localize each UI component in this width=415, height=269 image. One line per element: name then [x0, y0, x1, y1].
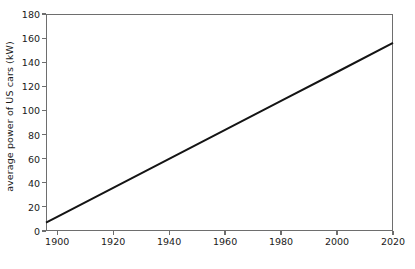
- y-axis-title: average power of US cars (kW): [0, 0, 18, 232]
- y-axis-tick-mark: [42, 158, 46, 159]
- x-axis-tick-mark: [224, 231, 225, 235]
- chart-figure: average power of US cars (kW) 0204060801…: [0, 0, 415, 269]
- y-axis-tick-label: 100: [0, 105, 40, 116]
- y-axis-tick-mark: [42, 13, 46, 14]
- y-axis-tick-label: 80: [0, 129, 40, 140]
- y-axis-tick-mark: [42, 134, 46, 135]
- y-axis-tick-mark: [42, 62, 46, 63]
- y-axis-tick-label: 120: [0, 81, 40, 92]
- y-axis-tick-label: 160: [0, 33, 40, 44]
- y-axis-tick-label: 20: [0, 201, 40, 212]
- plot-area: [46, 14, 393, 231]
- y-axis-tick-label: 60: [0, 153, 40, 164]
- y-axis-tick-label: 40: [0, 177, 40, 188]
- x-axis-tick-label: 1900: [45, 236, 69, 247]
- x-axis-tick-mark: [113, 231, 114, 235]
- x-axis-tick-mark: [169, 231, 170, 235]
- x-axis-tick-label: 2020: [381, 236, 405, 247]
- x-axis-tick-label: 2000: [325, 236, 349, 247]
- y-axis-tick-mark: [42, 230, 46, 231]
- x-axis-tick-label: 1940: [157, 236, 181, 247]
- x-axis-tick-label: 1980: [269, 236, 293, 247]
- y-axis-tick-label: 180: [0, 9, 40, 20]
- x-axis-tick-mark: [392, 231, 393, 235]
- y-axis-tick-mark: [42, 206, 46, 207]
- x-axis-tick-label: 1960: [213, 236, 237, 247]
- data-series-line: [46, 43, 393, 223]
- x-axis-tick-mark: [336, 231, 337, 235]
- y-axis-tick-labels: 020406080100120140160180: [0, 0, 40, 269]
- x-axis-tick-label: 1920: [101, 236, 125, 247]
- x-axis-tick-mark: [280, 231, 281, 235]
- y-axis-tick-mark: [42, 38, 46, 39]
- y-axis-tick-label: 0: [0, 226, 40, 237]
- y-axis-tick-label: 140: [0, 57, 40, 68]
- y-axis-title-text: average power of US cars (kW): [4, 41, 15, 192]
- y-axis-tick-mark: [42, 110, 46, 111]
- y-axis-tick-mark: [42, 182, 46, 183]
- x-axis-tick-mark: [57, 231, 58, 235]
- y-axis-tick-mark: [42, 86, 46, 87]
